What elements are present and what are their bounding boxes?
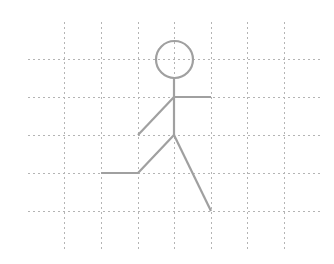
figure-leg-left <box>101 135 174 173</box>
diagram-canvas <box>0 0 334 264</box>
stick-figure-diagram <box>0 0 334 264</box>
stick-figure <box>101 41 211 211</box>
figure-arm-left <box>138 97 174 135</box>
